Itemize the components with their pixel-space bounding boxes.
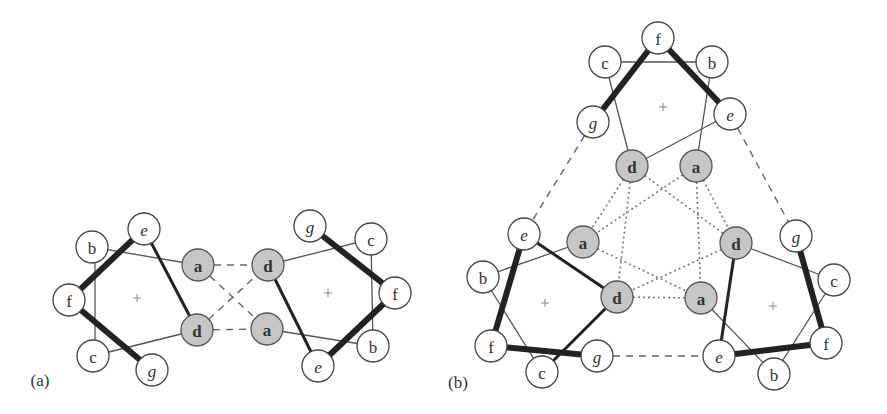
residue-node-c: c <box>526 356 558 388</box>
residue-label: g <box>148 362 157 381</box>
residue-label: d <box>731 235 741 254</box>
residue-label: f <box>488 338 494 357</box>
center-plus-icon <box>659 103 667 111</box>
nodes-layer: ebfcgadgcdfabefcbgedaeabdfgcgdcafeb <box>53 22 850 390</box>
residue-label: e <box>140 221 148 240</box>
residue-label: d <box>612 289 622 308</box>
residue-node-b: b <box>758 358 790 390</box>
residue-node-c: c <box>77 340 109 372</box>
center-plus-icon <box>133 294 141 302</box>
edge-dotted <box>703 180 728 229</box>
residue-label: c <box>830 272 838 291</box>
residue-label: g <box>593 348 602 367</box>
residue-node-b: b <box>696 46 728 78</box>
residue-node-g: g <box>780 220 812 252</box>
edge-dashed <box>738 128 789 222</box>
panel-b-label: (b) <box>448 373 468 392</box>
residue-node-a: a <box>567 226 599 258</box>
wheel-centers <box>133 103 777 310</box>
residue-label: e <box>520 226 528 245</box>
edge-dotted <box>633 297 685 298</box>
center-plus-icon <box>541 299 549 307</box>
residue-label: d <box>627 158 637 177</box>
residue-label: a <box>579 234 588 253</box>
residue-node-d: d <box>601 281 633 313</box>
residue-label: c <box>538 364 546 383</box>
residue-node-f: f <box>810 327 842 359</box>
residue-node-e: e <box>508 218 540 250</box>
edge-med <box>144 229 197 330</box>
residue-label: f <box>655 30 661 49</box>
residue-node-c: c <box>589 46 621 78</box>
residue-node-b: b <box>357 330 389 362</box>
residue-node-f: f <box>642 22 674 54</box>
residue-label: e <box>314 358 322 377</box>
residue-label: b <box>88 239 97 258</box>
residue-node-b: b <box>467 261 499 293</box>
residue-node-d: d <box>616 150 648 182</box>
edge-dotted <box>596 175 682 233</box>
edge-dotted <box>619 182 630 281</box>
residue-label: f <box>823 335 829 354</box>
residue-label: d <box>192 322 202 341</box>
residue-label: d <box>263 257 273 276</box>
residue-node-a: a <box>680 150 712 182</box>
edge-dashed <box>532 136 584 221</box>
residue-label: a <box>263 321 272 340</box>
residue-label: b <box>369 338 378 357</box>
residue-node-a: a <box>251 313 283 345</box>
residue-label: f <box>66 292 72 311</box>
residue-node-f: f <box>53 284 85 316</box>
residue-label: c <box>367 231 375 250</box>
residue-node-d: d <box>181 314 213 346</box>
edge-thick <box>491 234 524 346</box>
residue-node-f: f <box>475 330 507 362</box>
residue-node-e: e <box>302 350 334 382</box>
residue-node-a: a <box>685 282 717 314</box>
residue-node-d: d <box>720 227 752 259</box>
residue-label: g <box>306 218 315 237</box>
helical-wheel-diagram: ebfcgadgcdfabefcbgedaeabdfgcgdcafeb (a) … <box>0 0 887 414</box>
residue-node-a: a <box>182 249 214 281</box>
residue-node-b: b <box>76 231 108 263</box>
edge-dotted <box>697 182 701 282</box>
edge-med <box>719 243 736 356</box>
residue-label: b <box>770 366 779 385</box>
residue-node-g: g <box>581 340 613 372</box>
residue-node-d: d <box>252 249 284 281</box>
panel-a-label: (a) <box>31 371 50 390</box>
residue-node-c: c <box>818 264 850 296</box>
residue-node-g: g <box>136 354 168 386</box>
residue-label: e <box>726 106 734 125</box>
residue-node-e: e <box>714 98 746 130</box>
residue-label: g <box>792 228 801 247</box>
residue-node-e: e <box>128 213 160 245</box>
residue-node-c: c <box>355 223 387 255</box>
residue-label: a <box>692 158 701 177</box>
residue-label: c <box>601 54 609 73</box>
residue-label: c <box>89 348 97 367</box>
center-plus-icon <box>769 302 777 310</box>
residue-label: e <box>715 348 723 367</box>
residue-node-g: g <box>577 106 609 138</box>
center-plus-icon <box>324 289 332 297</box>
edge-dotted <box>645 176 723 234</box>
edge-dotted <box>592 179 624 228</box>
residue-label: a <box>697 290 706 309</box>
edge-dashed-short <box>213 329 251 330</box>
residue-label: g <box>589 114 598 133</box>
residue-label: b <box>479 269 488 288</box>
residue-label: f <box>392 285 398 304</box>
residue-label: a <box>194 257 203 276</box>
residue-node-f: f <box>379 277 411 309</box>
residue-label: b <box>708 54 717 73</box>
residue-node-e: e <box>703 340 735 372</box>
residue-node-g: g <box>294 210 326 242</box>
